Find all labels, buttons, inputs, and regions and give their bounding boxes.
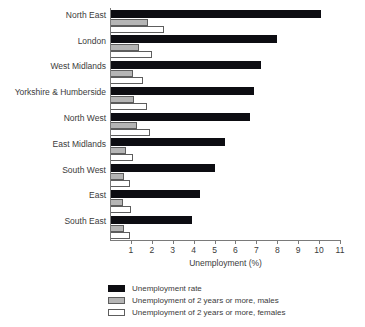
x-tick: [152, 240, 153, 244]
bar-rate: [110, 35, 277, 43]
bar-females: [110, 180, 130, 187]
bar-males: [110, 96, 134, 103]
bar-rate: [110, 113, 250, 121]
bar-females: [110, 232, 130, 239]
x-axis-line: [110, 240, 341, 241]
bar-rate: [110, 10, 321, 18]
x-tick: [173, 240, 174, 244]
bar-males: [110, 122, 137, 129]
x-tick: [319, 240, 320, 244]
x-tick: [235, 240, 236, 244]
bar-group: East: [110, 188, 340, 214]
bar-females: [110, 129, 150, 136]
x-tick: [194, 240, 195, 244]
bar-males: [110, 70, 133, 77]
legend-label-males: Unemployment of 2 years or more, males: [132, 296, 279, 305]
bar-group: Yorkshire & Humberside: [110, 85, 340, 111]
bar-males: [110, 19, 148, 26]
category-label: East Midlands: [2, 139, 106, 149]
legend-item-long-term-males: Unemployment of 2 years or more, males: [108, 295, 285, 306]
x-axis-title: Unemployment (%): [110, 258, 341, 268]
bar-group: West Midlands: [110, 60, 340, 86]
bar-males: [110, 225, 124, 232]
bar-rate: [110, 61, 261, 69]
bar-group: North East: [110, 8, 340, 34]
category-label: North West: [2, 113, 106, 123]
bar-group: South West: [110, 163, 340, 189]
x-tick: [298, 240, 299, 244]
bar-rate: [110, 138, 225, 146]
legend-label-females: Unemployment of 2 years or more, females: [132, 308, 285, 317]
bar-males: [110, 147, 126, 154]
x-tick: [277, 240, 278, 244]
bar-rate: [110, 190, 200, 198]
category-label: South East: [2, 216, 106, 226]
bar-group: East Midlands: [110, 137, 340, 163]
bar-rate: [110, 216, 192, 224]
bar-males: [110, 44, 139, 51]
plot-area: North EastLondonWest MidlandsYorkshire &…: [110, 8, 340, 240]
chart-legend: Unemployment rate Unemployment of 2 year…: [108, 283, 285, 319]
bar-females: [110, 103, 147, 110]
legend-swatch-rate-icon: [108, 285, 125, 292]
legend-swatch-females-icon: [108, 309, 125, 316]
bar-females: [110, 26, 164, 33]
bar-females: [110, 51, 152, 58]
x-tick: [215, 240, 216, 244]
x-tick-label: 11: [328, 245, 352, 255]
x-tick: [340, 240, 341, 244]
legend-label-rate: Unemployment rate: [132, 284, 202, 293]
category-label: Yorkshire & Humberside: [2, 87, 106, 97]
bar-females: [110, 154, 133, 161]
unemployment-bar-chart: North EastLondonWest MidlandsYorkshire &…: [0, 0, 365, 327]
bar-males: [110, 173, 124, 180]
y-axis-line: [110, 8, 111, 240]
bar-rate: [110, 87, 254, 95]
category-label: West Midlands: [2, 61, 106, 71]
legend-item-long-term-females: Unemployment of 2 years or more, females: [108, 307, 285, 318]
bar-group: South East: [110, 214, 340, 240]
category-label: South West: [2, 165, 106, 175]
legend-swatch-males-icon: [108, 297, 125, 304]
category-label: North East: [2, 10, 106, 20]
bar-group: North West: [110, 111, 340, 137]
bar-males: [110, 199, 123, 206]
x-tick: [256, 240, 257, 244]
legend-item-unemployment-rate: Unemployment rate: [108, 283, 285, 294]
bar-group: London: [110, 34, 340, 60]
bar-rate: [110, 164, 215, 172]
category-label: London: [2, 36, 106, 46]
bar-females: [110, 206, 131, 213]
category-label: East: [2, 190, 106, 200]
x-tick: [131, 240, 132, 244]
bar-females: [110, 77, 143, 84]
